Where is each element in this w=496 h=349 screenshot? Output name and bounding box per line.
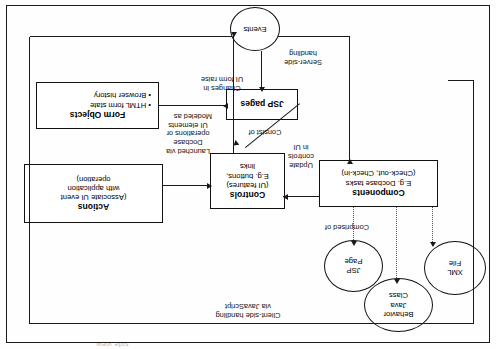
node-jsp-page: JSP Page xyxy=(324,240,383,292)
connector-components-to-controls xyxy=(283,196,319,197)
connector-server-to-events xyxy=(278,36,350,37)
node-components: Components E.g. Docbase tasks (Check-out… xyxy=(319,160,438,207)
form-objects-title: Form Objects xyxy=(70,110,125,120)
node-xml-file: XML File xyxy=(424,241,486,295)
connector-events-to-jsp-pages-vertical xyxy=(261,51,262,89)
jsp-page-line2: Page xyxy=(345,257,363,266)
controls-title: Controls xyxy=(230,190,265,200)
arrow-events-to-jsp-pages xyxy=(259,87,265,92)
connector-client-side-bottom xyxy=(30,323,474,324)
controls-line3: links xyxy=(240,162,255,171)
edge-label-comprised-of: Comprised of xyxy=(302,222,392,231)
node-jsp-pages: JSP pages xyxy=(226,89,298,120)
diagram-canvas: side view Behavior Java Class XML File J… xyxy=(0,0,496,349)
arrow-components-to-jsp-page xyxy=(351,241,357,246)
edge-label-launched-via: Launched via Docbase operations or UI el… xyxy=(144,120,232,155)
jsp-pages-title: JSP pages xyxy=(240,100,283,110)
actions-title: Actions xyxy=(78,202,110,212)
form-objects-bullet-1: • HTML form state xyxy=(90,101,151,110)
xml-file-line1: XML xyxy=(447,268,463,277)
jsp-page-line1: JSP xyxy=(345,266,363,275)
connector-client-side-right xyxy=(29,37,30,324)
behavior-java-class-line1: Behavior xyxy=(384,310,414,319)
edge-label-server-side-handling: Server-side handling xyxy=(263,48,343,66)
form-objects-bullet-2: • Browser history xyxy=(94,91,151,100)
components-line1: E.g. Docbase tasks xyxy=(346,179,411,188)
connector-client-side-left xyxy=(473,81,474,324)
edge-label-consist-of: Consist of xyxy=(234,127,296,136)
connector-client-side-to-form-objects xyxy=(448,80,474,81)
actions-line1: (Associate UI event xyxy=(61,193,127,202)
connector-controls-to-actions xyxy=(163,185,210,186)
edge-label-changes-raise: Changes in UI form raise xyxy=(176,74,268,92)
connector-components-server-vertical xyxy=(349,37,350,160)
arrow-components-to-xml-file xyxy=(430,242,436,247)
xml-file-line2: File xyxy=(447,259,463,268)
connector-client-side-right-bottom xyxy=(30,36,232,37)
actions-line2: with application xyxy=(68,184,120,193)
arrow-server-side-down xyxy=(347,159,353,164)
arrow-components-to-controls xyxy=(283,194,288,200)
edge-label-client-side-handling: Client-side handling via JavaScript xyxy=(148,301,348,319)
edge-label-update-controls: Update controls in UI xyxy=(268,143,334,169)
node-events: Events xyxy=(230,7,280,51)
components-title: Components xyxy=(352,188,405,198)
controls-line1: (UI features) xyxy=(226,181,268,190)
node-form-objects: Form Objects • HTML form state • Browser… xyxy=(36,82,159,129)
diagram-content: Behavior Java Class XML File JSP Page Co… xyxy=(0,0,496,349)
connector-components-to-behavior-class xyxy=(396,207,397,280)
connector-jsp-pages-to-form-objects xyxy=(159,105,226,106)
node-actions: Actions (Associate UI event with applica… xyxy=(24,164,163,223)
events-label: Events xyxy=(243,24,266,33)
behavior-java-class-line3: Class xyxy=(384,291,414,300)
behavior-java-class-line2: Java xyxy=(384,300,414,309)
actions-line3: operation) xyxy=(76,175,110,184)
edge-label-modeled-as: Modeled as xyxy=(162,111,224,120)
connector-components-to-xml-file xyxy=(432,207,433,243)
arrow-controls-to-actions xyxy=(207,183,212,189)
arrow-modeled-as xyxy=(223,103,228,109)
arrow-components-to-behavior-class xyxy=(394,279,400,284)
components-line2: (Check-out, Check-in) xyxy=(342,169,416,178)
controls-line2: E.g. buttons, xyxy=(226,171,269,180)
